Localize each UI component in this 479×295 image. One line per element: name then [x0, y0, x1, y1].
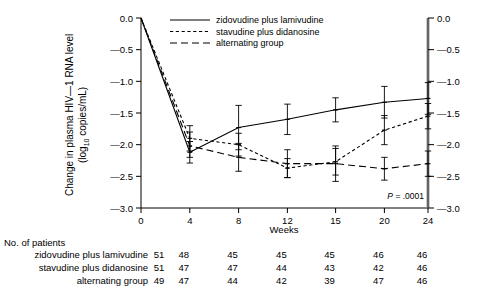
patients-table-cell: 47: [227, 262, 238, 273]
patients-table-row-label: alternating group: [77, 275, 148, 286]
x-tick-label: 24: [423, 215, 434, 226]
y-tick-label-left: —2.5: [110, 171, 133, 182]
patients-table-cell: 45: [227, 249, 238, 260]
patients-table-cell: 47: [373, 275, 384, 286]
patients-table: zidovudine plus lamivudine51484545454646…: [34, 249, 427, 286]
x-tick-label: 20: [379, 215, 390, 226]
ylabel-log-post: copies/mL): [77, 87, 88, 139]
series-lines: [141, 18, 428, 169]
y-tick-label-right: —0.5: [437, 44, 460, 55]
patients-table-cell: 43: [324, 262, 335, 273]
legend-label: stavudine plus didanosine: [216, 27, 320, 37]
y-tick-label-left: 0.0: [120, 13, 133, 24]
x-tick-label: 15: [330, 215, 341, 226]
y-tick-label-left: —1.0: [110, 76, 133, 87]
ylabel-log-pre: (log: [77, 146, 88, 163]
patients-table-cell: 46: [417, 249, 428, 260]
y-tick-label-left: —1.5: [110, 108, 133, 119]
y-axis-title-line1: Change in plasma HIV—1 RNA level: [64, 34, 75, 196]
y-tick-label-left: —2.0: [110, 139, 133, 150]
x-axis-title: Weeks: [270, 224, 299, 235]
x-tick-label: 4: [187, 215, 192, 226]
figure-container: 0.0—0.5—1.0—1.5—2.0—2.5—3.0 0.0—0.5—1.0—…: [0, 0, 479, 295]
patients-table-title: No. of patients: [4, 237, 66, 248]
y-tick-label-left: —3.0: [110, 203, 133, 214]
y-tick-label-right: —2.5: [437, 171, 460, 182]
patients-table-cell: 46: [417, 262, 428, 273]
ylabel-log-sub: 10: [83, 138, 90, 146]
patients-table-cell: 42: [276, 275, 287, 286]
y-tick-label-left: —0.5: [110, 44, 133, 55]
patients-table-cell: 51: [154, 262, 165, 273]
patients-table-cell: 44: [227, 275, 238, 286]
patients-table-cell: 45: [324, 249, 335, 260]
x-tick-label: 0: [138, 215, 143, 226]
patients-table-cell: 46: [417, 275, 428, 286]
y-tick-label-right: 0.0: [437, 13, 450, 24]
series-line: [141, 18, 428, 169]
legend: zidovudine plus lamivudinestavudine plus…: [170, 15, 324, 48]
patients-table-cell: 44: [276, 262, 287, 273]
patients-table-cell: 46: [373, 249, 384, 260]
y-tick-label-right: —1.5: [437, 108, 460, 119]
p-value-annotation: P = .0001: [387, 191, 424, 201]
series-markers: [187, 98, 430, 168]
patients-table-cell: 49: [154, 275, 165, 286]
error-bars: [187, 83, 432, 182]
patients-table-cell: 39: [324, 275, 335, 286]
patients-table-cell: 48: [179, 249, 190, 260]
p-value-rest: = .0001: [393, 191, 424, 201]
x-tick-label: 8: [236, 215, 241, 226]
patients-table-cell: 51: [154, 249, 165, 260]
y-tick-label-right: —1.0: [437, 76, 460, 87]
patients-table-cell: 45: [276, 249, 287, 260]
patients-table-row-label: zidovudine plus lamivudine: [34, 249, 148, 260]
plot-axes: [141, 18, 428, 208]
y-axis-title: Change in plasma HIV—1 RNA level (log10 …: [64, 34, 90, 196]
patients-table-cell: 47: [179, 275, 190, 286]
series-line: [141, 18, 428, 168]
hiv-rna-line-chart: 0.0—0.5—1.0—1.5—2.0—2.5—3.0 0.0—0.5—1.0—…: [0, 0, 479, 295]
legend-label: zidovudine plus lamivudine: [216, 15, 324, 25]
patients-table-cell: 42: [373, 262, 384, 273]
y-tick-label-right: —2.0: [437, 139, 460, 150]
patients-table-row-label: stavudine plus didanosine: [39, 262, 148, 273]
y-axis-title-line2: (log10 copies/mL): [77, 87, 90, 163]
y-tick-label-right: —3.0: [437, 203, 460, 214]
y-ticks-right: 0.0—0.5—1.0—1.5—2.0—2.5—3.0: [428, 13, 460, 214]
patients-table-cell: 47: [179, 262, 190, 273]
y-ticks-left: 0.0—0.5—1.0—1.5—2.0—2.5—3.0: [110, 13, 141, 214]
legend-label: alternating group: [216, 38, 284, 48]
